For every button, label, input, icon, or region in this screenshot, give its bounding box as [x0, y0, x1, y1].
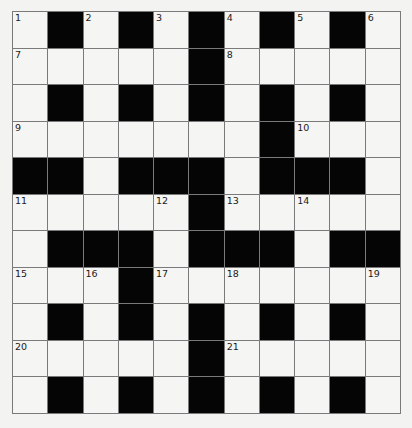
crossword-cell[interactable]	[225, 304, 259, 340]
crossword-cell[interactable]	[225, 122, 259, 158]
crossword-cell[interactable]	[154, 122, 188, 158]
black-square	[295, 158, 329, 194]
crossword-cell[interactable]: 1	[13, 12, 47, 48]
crossword-cell[interactable]	[84, 122, 118, 158]
crossword-cell[interactable]	[48, 195, 82, 231]
crossword-cell[interactable]	[154, 341, 188, 377]
crossword-cell[interactable]	[84, 49, 118, 85]
black-square	[189, 158, 223, 194]
crossword-cell[interactable]	[225, 377, 259, 413]
crossword-cell[interactable]: 19	[366, 268, 400, 304]
crossword-cell[interactable]	[119, 195, 153, 231]
crossword-cell[interactable]	[48, 268, 82, 304]
clue-number: 8	[227, 50, 233, 60]
crossword-cell[interactable]	[366, 49, 400, 85]
clue-number: 17	[156, 269, 168, 279]
crossword-cell[interactable]	[366, 195, 400, 231]
crossword-cell[interactable]	[330, 268, 364, 304]
crossword-cell[interactable]	[330, 195, 364, 231]
crossword-cell[interactable]	[84, 158, 118, 194]
clue-number: 13	[227, 196, 239, 206]
crossword-cell[interactable]	[84, 195, 118, 231]
black-square	[189, 85, 223, 121]
crossword-cell[interactable]: 15	[13, 268, 47, 304]
crossword-cell[interactable]	[13, 231, 47, 267]
crossword-cell[interactable]	[366, 158, 400, 194]
crossword-cell[interactable]: 16	[84, 268, 118, 304]
black-square	[260, 158, 294, 194]
clue-number: 15	[15, 269, 27, 279]
crossword-cell[interactable]: 9	[13, 122, 47, 158]
crossword-cell[interactable]	[295, 49, 329, 85]
crossword-cell[interactable]: 2	[84, 12, 118, 48]
crossword-cell[interactable]	[84, 304, 118, 340]
crossword-cell[interactable]	[295, 268, 329, 304]
clue-number: 2	[86, 13, 92, 23]
crossword-cell[interactable]	[154, 231, 188, 267]
crossword-cell[interactable]	[260, 341, 294, 377]
crossword-cell[interactable]: 8	[225, 49, 259, 85]
crossword-cell[interactable]: 3	[154, 12, 188, 48]
black-square	[48, 377, 82, 413]
crossword-cell[interactable]	[119, 122, 153, 158]
black-square	[119, 12, 153, 48]
crossword-cell[interactable]	[330, 49, 364, 85]
black-square	[330, 85, 364, 121]
crossword-cell[interactable]: 6	[366, 12, 400, 48]
crossword-cell[interactable]: 13	[225, 195, 259, 231]
crossword-cell[interactable]	[295, 85, 329, 121]
crossword-cell[interactable]	[48, 341, 82, 377]
clue-number: 9	[15, 123, 21, 133]
crossword-cell[interactable]	[295, 377, 329, 413]
crossword-cell[interactable]	[366, 304, 400, 340]
crossword-cell[interactable]: 21	[225, 341, 259, 377]
crossword-cell[interactable]	[260, 268, 294, 304]
crossword-cell[interactable]	[119, 49, 153, 85]
crossword-cell[interactable]	[260, 195, 294, 231]
crossword-cell[interactable]: 20	[13, 341, 47, 377]
crossword-cell[interactable]	[84, 85, 118, 121]
crossword-cell[interactable]	[13, 85, 47, 121]
crossword-cell[interactable]: 14	[295, 195, 329, 231]
crossword-cell[interactable]	[295, 304, 329, 340]
crossword-cell[interactable]	[84, 377, 118, 413]
crossword-cell[interactable]: 11	[13, 195, 47, 231]
crossword-cell[interactable]	[154, 377, 188, 413]
crossword-cell[interactable]	[189, 122, 223, 158]
crossword-cell[interactable]	[189, 268, 223, 304]
crossword-cell[interactable]	[366, 122, 400, 158]
crossword-cell[interactable]: 7	[13, 49, 47, 85]
crossword-cell[interactable]: 10	[295, 122, 329, 158]
crossword-cell[interactable]	[225, 158, 259, 194]
crossword-cell[interactable]: 17	[154, 268, 188, 304]
crossword-cell[interactable]	[13, 304, 47, 340]
crossword-cell[interactable]	[366, 85, 400, 121]
clue-number: 19	[368, 269, 380, 279]
black-square	[119, 231, 153, 267]
crossword-cell[interactable]	[48, 122, 82, 158]
crossword-cell[interactable]: 12	[154, 195, 188, 231]
crossword-cell[interactable]	[13, 377, 47, 413]
crossword-cell[interactable]	[48, 49, 82, 85]
black-square	[189, 341, 223, 377]
crossword-cell[interactable]	[295, 341, 329, 377]
crossword-cell[interactable]	[366, 341, 400, 377]
crossword-cell[interactable]	[330, 341, 364, 377]
crossword-cell[interactable]	[260, 49, 294, 85]
clue-number: 16	[86, 269, 98, 279]
crossword-cell[interactable]	[119, 341, 153, 377]
crossword-cell[interactable]	[84, 341, 118, 377]
crossword-cell[interactable]	[366, 377, 400, 413]
crossword-cell[interactable]: 18	[225, 268, 259, 304]
crossword-cell[interactable]	[225, 85, 259, 121]
crossword-cell[interactable]: 4	[225, 12, 259, 48]
crossword-cell[interactable]	[330, 122, 364, 158]
clue-number: 18	[227, 269, 239, 279]
crossword-cell[interactable]	[295, 231, 329, 267]
crossword-cell[interactable]	[154, 49, 188, 85]
crossword-cell[interactable]	[154, 304, 188, 340]
black-square	[119, 268, 153, 304]
black-square	[260, 122, 294, 158]
crossword-cell[interactable]	[154, 85, 188, 121]
crossword-cell[interactable]: 5	[295, 12, 329, 48]
